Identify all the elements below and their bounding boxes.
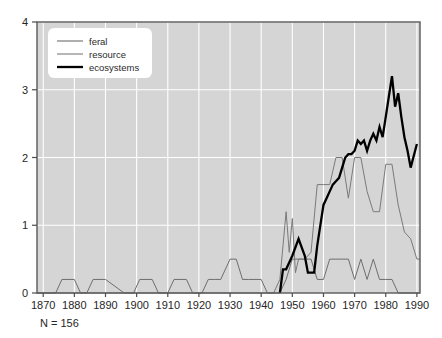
x-tick-label: 1990 — [405, 299, 429, 311]
x-tick-label: 1950 — [280, 299, 304, 311]
legend-label-ecosystems: ecosystems — [89, 62, 139, 73]
y-tick-label: 2 — [22, 152, 28, 164]
x-tick-label: 1970 — [342, 299, 366, 311]
y-tick-label: 3 — [22, 84, 28, 96]
y-tick-label: 1 — [22, 219, 28, 231]
x-tick-label: 1900 — [124, 299, 148, 311]
line-chart: 01234 1870188018901900191019201930194019… — [0, 0, 442, 338]
chart-legend: feral resource ecosystems — [48, 28, 152, 78]
legend-label-feral: feral — [89, 36, 107, 47]
y-tick-label: 4 — [22, 16, 28, 28]
x-tick-label: 1910 — [156, 299, 180, 311]
x-tick-label: 1920 — [187, 299, 211, 311]
y-tick-label: 0 — [22, 287, 28, 299]
legend-label-resource: resource — [89, 49, 126, 60]
x-tick-label: 1930 — [218, 299, 242, 311]
chart-container: 01234 1870188018901900191019201930194019… — [0, 0, 442, 338]
x-tick-label: 1870 — [31, 299, 55, 311]
x-tick-label: 1890 — [93, 299, 117, 311]
sample-size-note: N = 156 — [40, 317, 79, 329]
x-tick-label: 1940 — [249, 299, 273, 311]
x-tick-label: 1960 — [311, 299, 335, 311]
x-tick-label: 1980 — [374, 299, 398, 311]
x-tick-label: 1880 — [62, 299, 86, 311]
